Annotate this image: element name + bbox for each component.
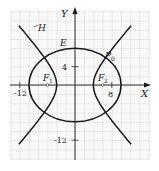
ellipse-label: E <box>59 38 67 48</box>
x-tick-label-8: 8 <box>108 90 113 99</box>
svg-text:1: 1 <box>49 77 53 84</box>
focus-right-point <box>101 84 104 87</box>
svg-text:2: 2 <box>104 77 108 84</box>
x-axis-label: X <box>140 88 149 99</box>
conic-diagram: Y X 4 -12 -12 8 H E F 1 F 2 P 0 <box>0 0 159 171</box>
svg-text:0: 0 <box>111 55 115 62</box>
focus-left-point <box>46 84 49 87</box>
x-tick-label-neg12: -12 <box>14 89 27 98</box>
y-tick-label-4: 4 <box>62 63 67 72</box>
hyperbola-label: H <box>37 23 46 33</box>
y-tick-label-neg12: -12 <box>54 136 67 145</box>
